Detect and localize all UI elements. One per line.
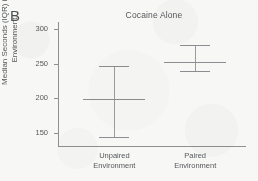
y-axis-line bbox=[58, 22, 59, 147]
error-bar-lower-cap bbox=[99, 137, 129, 138]
error-bar-lower-cap bbox=[180, 71, 210, 72]
y-axis-tick-label: 200 bbox=[35, 93, 48, 102]
error-bar-upper-cap bbox=[99, 66, 129, 67]
y-axis-tick-label: 300 bbox=[35, 24, 48, 33]
error-bar-stem bbox=[195, 45, 196, 71]
y-axis-tick: 200 bbox=[54, 98, 59, 99]
median-marker bbox=[164, 62, 226, 63]
x-axis-category-label-line: Paired bbox=[152, 151, 238, 161]
data-point-group: PairedEnvironment bbox=[150, 22, 240, 147]
error-bar-stem bbox=[114, 66, 115, 137]
chart-title: Cocaine Alone bbox=[56, 10, 252, 20]
plot-area: 150200250300 UnpairedEnvironmentPairedEn… bbox=[58, 22, 246, 147]
y-axis-title: Median Seconds (IQR) in Environment bbox=[0, 0, 26, 101]
data-point-group: UnpairedEnvironment bbox=[69, 22, 159, 147]
x-axis-category-label: UnpairedEnvironment bbox=[71, 151, 157, 170]
y-axis-tick-label: 250 bbox=[35, 59, 48, 68]
y-axis-title-line-1: Median Seconds (IQR) in bbox=[0, 0, 10, 101]
error-bar-upper-cap bbox=[180, 45, 210, 46]
y-axis-tick: 250 bbox=[54, 64, 59, 65]
y-axis-title-line-2: Environment bbox=[10, 0, 20, 101]
x-axis-category-label-line: Unpaired bbox=[71, 151, 157, 161]
x-axis-category-label-line: Environment bbox=[71, 161, 157, 171]
x-axis-category-label: PairedEnvironment bbox=[152, 151, 238, 170]
median-marker bbox=[83, 99, 145, 100]
figure-root: B Cocaine Alone Median Seconds (IQR) in … bbox=[0, 0, 258, 181]
y-axis-tick: 300 bbox=[54, 29, 59, 30]
x-axis-category-label-line: Environment bbox=[152, 161, 238, 171]
y-axis-tick: 150 bbox=[54, 133, 59, 134]
y-axis-tick-label: 150 bbox=[35, 128, 48, 137]
